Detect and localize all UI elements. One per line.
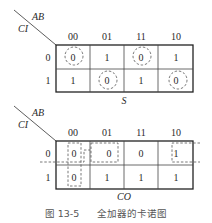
row-header: 0 (46, 52, 51, 63)
cell-value: 1 (174, 52, 179, 63)
cell-value: 0 (71, 52, 76, 63)
col-var-label: AB (31, 107, 44, 118)
row-var-label: CI (18, 119, 29, 130)
cell-value: 1 (105, 172, 110, 183)
karnaugh-map-s: AB CI 00 01 11 10 0 1 0 1 0 1 1 0 1 0 S (14, 10, 193, 106)
col-header: 11 (136, 127, 146, 138)
cell-value: 0 (139, 148, 144, 159)
col-header: 00 (68, 31, 78, 42)
row-header: 1 (46, 75, 51, 86)
row-var-label: CI (18, 23, 29, 34)
zero-circles (65, 47, 187, 89)
col-header: 10 (171, 127, 181, 138)
karnaugh-map-co: AB CI 00 01 11 10 0 1 0 0 0 1 0 1 1 1 CO (14, 106, 200, 202)
col-header: 01 (102, 31, 112, 42)
cell-value: 1 (139, 172, 144, 183)
cell-value: 1 (139, 75, 144, 86)
cell-value: 0 (105, 75, 110, 86)
cell-value: 0 (139, 52, 144, 63)
cell-value: 1 (174, 148, 179, 159)
col-header: 01 (102, 127, 112, 138)
group-row0-00-01 (91, 143, 118, 162)
row-header: 1 (46, 172, 51, 183)
grid-border (56, 45, 193, 92)
cell-value: 0 (107, 148, 112, 159)
figure-number: 图 13-5 (45, 206, 80, 220)
col-var-label: AB (31, 11, 44, 22)
col-header: 00 (68, 127, 78, 138)
row-header: 0 (46, 148, 51, 159)
karnaugh-maps-figure: AB CI 00 01 11 10 0 1 0 1 0 1 1 0 1 0 S … (0, 0, 212, 223)
cell-value: 0 (72, 148, 77, 159)
col-header: 10 (171, 31, 181, 42)
output-label: S (122, 95, 127, 106)
col-header: 11 (136, 31, 146, 42)
cell-value: 1 (71, 75, 76, 86)
cell-value: 0 (174, 75, 179, 86)
output-label: CO (117, 191, 131, 202)
figure-title: 全加器的卡诺图 (97, 206, 167, 220)
cell-value: 0 (72, 172, 77, 183)
figure-caption: 图 13-5 全加器的卡诺图 (0, 206, 212, 220)
cell-value: 1 (174, 172, 179, 183)
cell-value: 1 (105, 52, 110, 63)
